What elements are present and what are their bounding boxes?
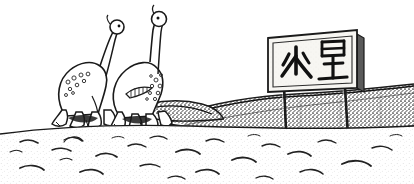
sandy-foreground <box>0 125 414 184</box>
left-creature-head <box>110 20 124 34</box>
left-creature-eye <box>118 25 121 28</box>
illustration-canvas: Two long-necked alien creatures beside a… <box>0 0 414 184</box>
sign-board-edge <box>357 34 364 92</box>
right-creature-eye <box>157 17 160 20</box>
scene-svg <box>0 0 414 184</box>
